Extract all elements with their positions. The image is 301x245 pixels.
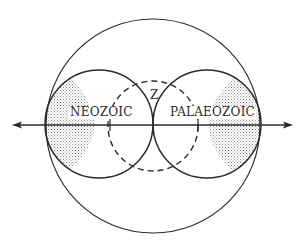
geologic-era-circles-diagram: [0, 0, 301, 245]
palaeozoic-label: PALAEOZOIC: [169, 106, 256, 119]
z-label: Z: [149, 89, 160, 102]
neozoic-label: NEOZOIC: [69, 106, 134, 119]
